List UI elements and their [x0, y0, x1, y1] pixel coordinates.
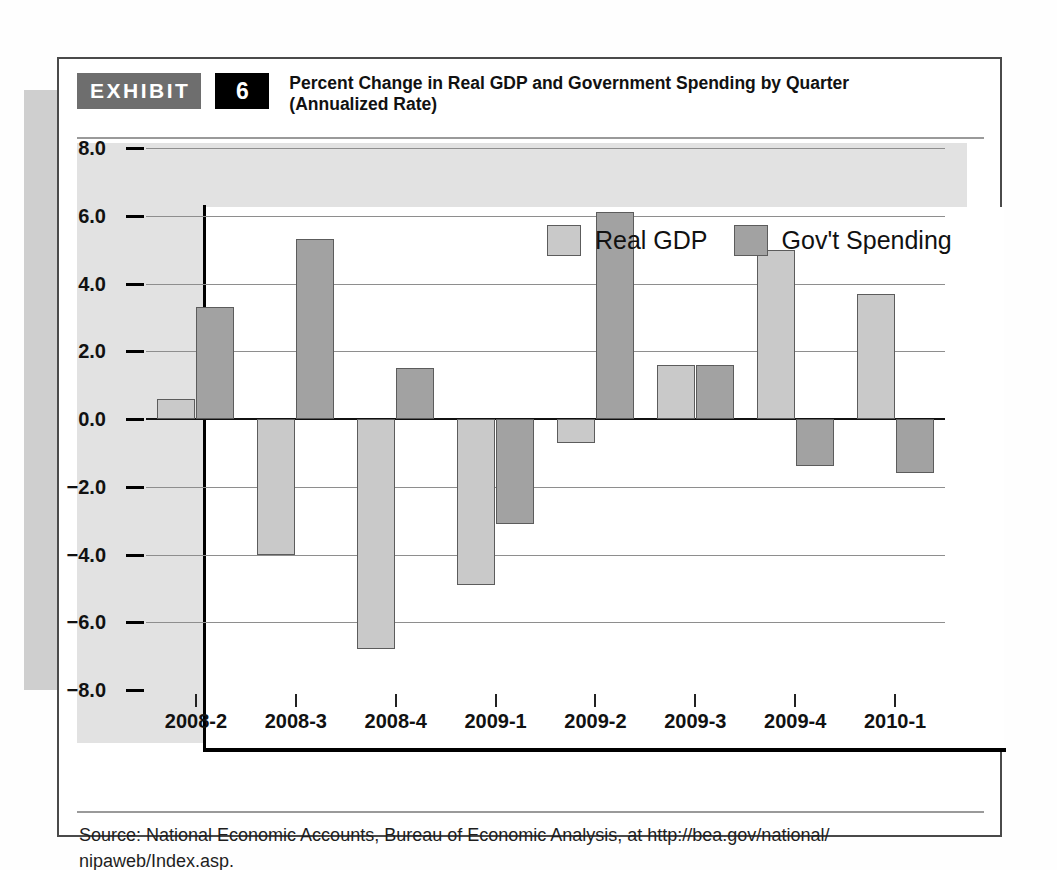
gridline [146, 284, 945, 285]
y-tick-label: −6.0 [36, 611, 106, 634]
x-tick-mark [894, 694, 896, 707]
x-tick-mark [195, 694, 197, 707]
y-tick-mark [126, 215, 144, 218]
x-tick-mark [295, 694, 297, 707]
gridline [146, 622, 945, 623]
legend-item: Gov't Spending [734, 225, 952, 256]
legend-swatch-icon [547, 225, 581, 256]
y-tick-label: −4.0 [36, 543, 106, 566]
x-tick-mark [495, 694, 497, 707]
x-tick-label: 2009-1 [464, 710, 526, 733]
y-tick-label: −8.0 [36, 679, 106, 702]
x-tick-mark [594, 694, 596, 707]
x-tick-mark [694, 694, 696, 707]
y-tick-mark [126, 554, 144, 557]
bar-govt-spending [496, 419, 534, 524]
y-tick-mark [126, 486, 144, 489]
bar-real-gdp [557, 419, 595, 443]
bar-real-gdp [857, 294, 895, 419]
exhibit-tag-label: EXHIBIT [77, 73, 201, 109]
exhibit-title-line-1: Percent Change in Real GDP and Governmen… [289, 73, 849, 93]
y-tick-mark [126, 689, 144, 692]
bar-real-gdp [757, 250, 795, 419]
y-tick-label: 4.0 [36, 272, 106, 295]
y-tick-mark [126, 418, 144, 421]
x-tick-label: 2009-2 [564, 710, 626, 733]
x-axis-line [203, 748, 1006, 752]
bar-govt-spending [196, 307, 234, 419]
y-axis-line [203, 205, 206, 751]
gridline [146, 555, 945, 556]
exhibit-header: EXHIBIT 6 Percent Change in Real GDP and… [77, 73, 984, 129]
x-tick-label: 2008-4 [365, 710, 427, 733]
legend-item: Real GDP [547, 225, 708, 256]
exhibit-title-line-2: (Annualized Rate) [289, 94, 849, 115]
bar-govt-spending [796, 419, 834, 466]
y-tick-mark [126, 147, 144, 150]
x-tick-label: 2008-3 [265, 710, 327, 733]
bar-real-gdp [257, 419, 295, 555]
source-note: Source: National Economic Accounts, Bure… [79, 822, 959, 870]
x-tick-mark [794, 694, 796, 707]
bar-govt-spending [896, 419, 934, 473]
bar-real-gdp [657, 365, 695, 419]
exhibit-number-badge: 6 [215, 73, 269, 109]
bar-govt-spending [396, 368, 434, 419]
exhibit-title: Percent Change in Real GDP and Governmen… [289, 73, 849, 115]
y-tick-label: 0.0 [36, 408, 106, 431]
legend-label: Real GDP [595, 226, 708, 255]
x-tick-label: 2009-3 [664, 710, 726, 733]
x-tick-mark [395, 694, 397, 707]
gridline [146, 351, 945, 352]
y-tick-mark [126, 283, 144, 286]
bar-govt-spending [696, 365, 734, 419]
x-tick-label: 2010-1 [864, 710, 926, 733]
y-tick-label: 6.0 [36, 204, 106, 227]
y-tick-label: 8.0 [36, 137, 106, 160]
chart-legend: Real GDPGov't Spending [547, 225, 952, 256]
exhibit-frame: EXHIBIT 6 Percent Change in Real GDP and… [57, 57, 1002, 837]
header-divider [77, 137, 984, 139]
bar-real-gdp [157, 399, 195, 419]
y-tick-mark [126, 621, 144, 624]
x-tick-label: 2009-4 [764, 710, 826, 733]
bar-real-gdp [457, 419, 495, 585]
gridline [146, 148, 945, 149]
legend-swatch-icon [734, 225, 768, 256]
y-tick-label: 2.0 [36, 340, 106, 363]
y-tick-label: −2.0 [36, 475, 106, 498]
gridline [146, 216, 945, 217]
bar-govt-spending [296, 239, 334, 419]
y-tick-mark [126, 350, 144, 353]
source-divider [77, 811, 984, 813]
x-tick-label: 2008-2 [165, 710, 227, 733]
exhibit-page: EXHIBIT 6 Percent Change in Real GDP and… [0, 0, 1057, 870]
bar-real-gdp [357, 419, 395, 649]
legend-label: Gov't Spending [782, 226, 952, 255]
